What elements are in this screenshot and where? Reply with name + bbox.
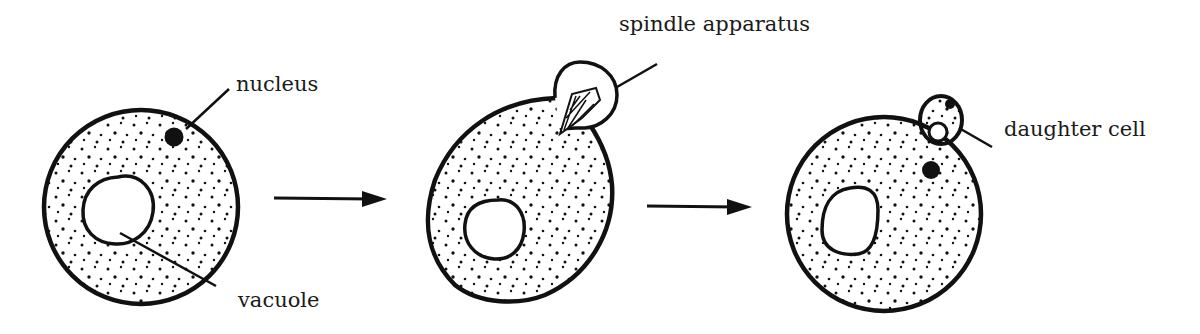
nucleus [922, 161, 940, 179]
budding-diagram [0, 0, 1200, 334]
label-spindle-apparatus: spindle apparatus [619, 14, 810, 35]
stage-2-cell [428, 62, 657, 302]
arrow-1 [274, 191, 387, 207]
vacuole [465, 200, 524, 259]
label-nucleus: nucleus [236, 74, 318, 95]
nucleus [165, 128, 184, 147]
label-daughter-cell: daughter cell [1004, 119, 1146, 140]
label-vacuole: vacuole [238, 290, 319, 311]
stage-1-cell [44, 89, 238, 304]
vacuole [822, 187, 878, 254]
stage-3-cell [787, 96, 992, 311]
spindle-pointer [617, 64, 657, 87]
arrow-2 [647, 199, 752, 215]
daughter-pointer [959, 128, 992, 147]
mother-cell-wall [787, 117, 981, 311]
nucleus-pointer [186, 89, 229, 129]
vacuole [83, 176, 153, 244]
